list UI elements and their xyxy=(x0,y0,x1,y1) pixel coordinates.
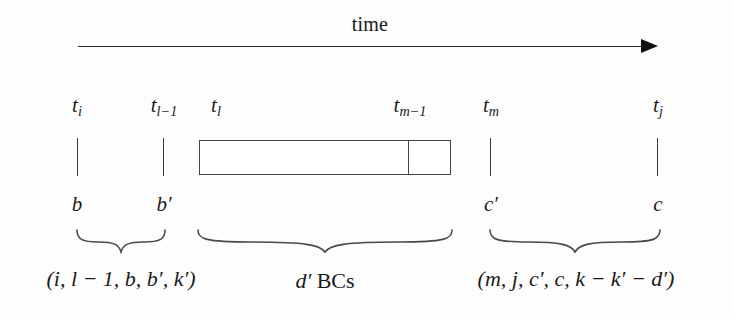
time-axis-label: time xyxy=(352,14,388,34)
caption-right: (m, j, c′, c, k − k′ − d′) xyxy=(478,268,675,290)
var-label-b-prime-text: b′ xyxy=(156,192,171,216)
var-label-c-prime: c′ xyxy=(484,194,498,215)
caption-right-text: (m, j, c′, c, k − k′ − d′) xyxy=(478,266,675,291)
tick-label-tj: tj xyxy=(653,95,663,116)
tick-label-ti: ti xyxy=(72,95,82,116)
var-label-b-prime: b′ xyxy=(156,194,171,215)
var-label-b: b xyxy=(72,194,83,215)
var-label-c-prime-text: c′ xyxy=(484,192,498,216)
tick-label-tj-text: tj xyxy=(653,93,663,117)
bc-block-box xyxy=(199,140,451,175)
tick-label-tl: tl xyxy=(211,95,221,116)
tick-mark-ti xyxy=(77,138,78,176)
tick-label-ti-text: ti xyxy=(72,93,82,117)
tick-mark-tj xyxy=(657,138,658,176)
tick-mark-tl-minus-1 xyxy=(163,138,164,176)
tick-mark-tm xyxy=(490,138,491,176)
caption-left-text: (i, l − 1, b, b′, k′) xyxy=(46,266,195,291)
timeline-figure: time ti tl−1 tl tm−1 tm tj b b′ c′ c xyxy=(0,0,734,318)
tick-label-tm-minus-1-text: tm−1 xyxy=(394,93,427,117)
tick-label-tl-minus-1-text: tl−1 xyxy=(151,93,178,117)
time-axis-arrowhead xyxy=(641,39,658,53)
caption-middle: d′ BCs xyxy=(295,268,354,294)
bc-block-divider xyxy=(408,140,409,175)
caption-middle-unit: BCs xyxy=(311,268,354,293)
caption-middle-count: d′ xyxy=(295,268,311,293)
tick-label-tm-text: tm xyxy=(483,93,499,117)
underbrace-middle xyxy=(196,228,454,254)
tick-label-tm: tm xyxy=(483,95,499,116)
caption-left: (i, l − 1, b, b′, k′) xyxy=(46,268,195,290)
var-label-c-text: c xyxy=(653,192,662,216)
tick-label-tl-text: tl xyxy=(211,93,221,117)
var-label-b-text: b xyxy=(72,192,83,216)
time-axis-line xyxy=(78,46,644,47)
underbrace-left xyxy=(75,228,167,254)
var-label-c: c xyxy=(653,194,662,215)
tick-label-tl-minus-1: tl−1 xyxy=(151,95,178,116)
underbrace-right xyxy=(488,228,662,254)
tick-label-tm-minus-1: tm−1 xyxy=(394,95,427,116)
